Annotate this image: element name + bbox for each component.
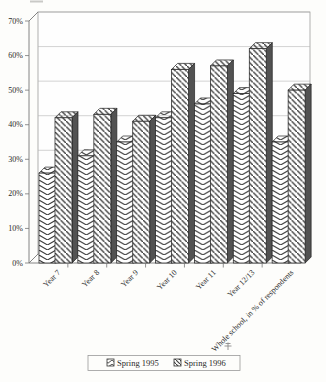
bar-spring-1996-cat5-side [266, 43, 272, 263]
bar-spring-1996-cat5 [249, 49, 266, 263]
bar-spring-1996-cat6-side [305, 84, 311, 263]
y-tick-label: 50% [8, 86, 23, 95]
bar-spring-1995-cat0 [39, 173, 56, 263]
bar-spring-1995-cat1 [78, 156, 95, 263]
bar-spring-1996-cat2-side [150, 115, 156, 263]
bar-spring-1996-cat1-side [111, 108, 117, 263]
category-label: Year 9 [119, 268, 140, 289]
bar-spring-1995-cat6 [272, 142, 289, 263]
bar-spring-1996-cat4-side [227, 60, 233, 263]
bar-spring-1996-cat2 [133, 121, 150, 263]
bar-spring-1995-cat3 [156, 118, 173, 263]
bar-spring-1996-cat3-side [189, 63, 195, 263]
y-tick-label: 10% [8, 224, 23, 233]
y-tick-label: 20% [8, 189, 23, 198]
category-label: Year 11 [194, 268, 218, 292]
scanned-chart-page: 0%10%20%30%40%50%60%70% Year 7Year 8Year… [0, 0, 326, 382]
x-axis-ticks: Year 7Year 8Year 9Year 10Year 11Year 12/… [41, 263, 295, 354]
category-label: Whole school, in % of respondents [210, 268, 296, 354]
bar-spring-1995-cat4 [194, 104, 211, 263]
category-label: Year 10 [155, 268, 179, 292]
legend: Spring 1995 Spring 1996 [88, 356, 240, 371]
bar-chart: 0%10%20%30%40%50%60%70% Year 7Year 8Year… [0, 0, 326, 382]
top-left-connector [29, 12, 38, 21]
bar-spring-1995-cat2 [117, 142, 134, 263]
y-axis-ticks: 0%10%20%30%40%50%60%70% [8, 17, 29, 268]
bar-spring-1996-cat6 [288, 90, 305, 263]
spring-1996-swatch-icon [174, 359, 181, 366]
bar-spring-1996-cat1 [94, 114, 111, 263]
y-tick-label: 60% [8, 51, 23, 60]
category-label: Year 8 [80, 268, 101, 289]
bottom-left-connector [29, 254, 38, 263]
bar-spring-1996-cat3 [172, 69, 189, 263]
y-tick-label: 30% [8, 155, 23, 164]
legend-label-spring-1995: Spring 1995 [117, 358, 159, 368]
legend-label-spring-1996: Spring 1996 [184, 358, 226, 368]
y-tick-label: 0% [12, 259, 23, 268]
bar-spring-1996-cat0 [55, 118, 72, 263]
bar-spring-1996-cat4 [210, 66, 227, 263]
y-tick-label: 70% [8, 17, 23, 26]
spring-1995-swatch-icon [107, 359, 114, 366]
bar-spring-1996-cat0-side [72, 112, 78, 263]
category-label: Year 7 [41, 268, 62, 289]
category-label: Year 12/13 [225, 268, 256, 299]
bar-spring-1995-cat5 [233, 94, 250, 263]
y-tick-label: 40% [8, 120, 23, 129]
